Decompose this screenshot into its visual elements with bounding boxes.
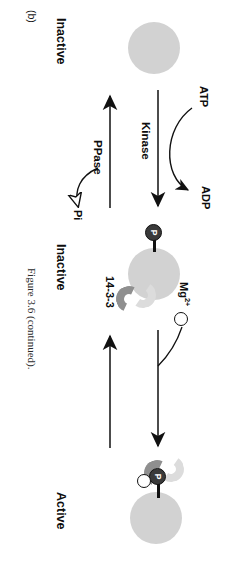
phosphate-icon-middle: P	[145, 224, 162, 241]
product-label-adp: ADP	[200, 186, 212, 209]
arc-atp-adp	[170, 108, 192, 190]
protein-blob-inactive	[128, 22, 180, 74]
product-label-pi: Pi	[72, 210, 84, 220]
state-label-inactive-left: Inactive	[54, 18, 68, 65]
scaffold-label-14-3-3: 14-3-3	[104, 276, 116, 308]
pathway-diagram: Inactive P Inactive P Active ATP	[0, 0, 250, 566]
magnesium-charge-text: 2+	[183, 298, 192, 307]
figure-rotated-canvas: Inactive P Inactive P Active ATP	[0, 0, 250, 566]
protein-blob-active	[130, 492, 182, 544]
state-label-active: Active	[54, 492, 68, 530]
cofactor-label-magnesium: Mg2+	[178, 282, 192, 306]
state-label-inactive-middle: Inactive	[54, 244, 68, 291]
arc-magnesium	[158, 327, 182, 366]
substrate-label-atp: ATP	[198, 86, 210, 107]
phosphate-icon-active: P	[149, 468, 166, 485]
magnesium-text: Mg	[178, 282, 190, 298]
magnesium-ion-icon	[174, 312, 188, 326]
magnesium-ion-bound-icon	[137, 474, 151, 488]
panel-label: (b)	[26, 10, 38, 23]
enzyme-label-ppase: PPase	[92, 140, 104, 175]
enzyme-label-kinase: Kinase	[140, 122, 152, 160]
figure-caption: Figure 3.6 (continued).	[26, 268, 38, 369]
figure-page: Inactive P Inactive P Active ATP	[0, 0, 250, 566]
